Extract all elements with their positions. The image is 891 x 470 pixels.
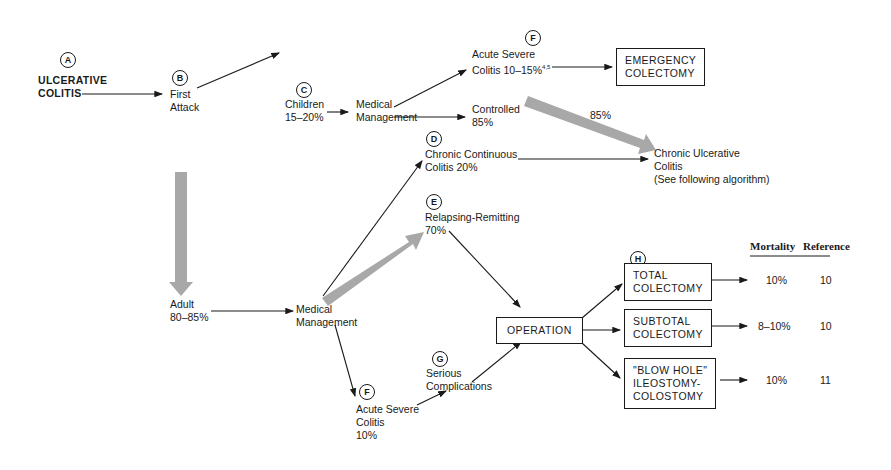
- node-children: Children 15–20%: [285, 98, 324, 124]
- med-mgmt-adult-line1: Medical: [296, 303, 357, 316]
- marker-a: A: [60, 52, 76, 68]
- gray-arrow-medmgmt-to-relapsing: [322, 232, 424, 306]
- gray-arrow-percent: 85%: [590, 109, 611, 122]
- adult-line2: 80–85%: [170, 311, 209, 324]
- box-emergency-colectomy: EMERGENCY COLECTOMY: [616, 48, 705, 86]
- d-line2: Colitis 20%: [425, 161, 517, 174]
- box-total-colectomy: TOTAL COLECTOMY: [624, 263, 712, 301]
- g-line2: Complications: [426, 380, 492, 393]
- mortality-subtotal: 8–10%: [758, 320, 791, 333]
- blowhole-line2: ILEOSTOMY-: [633, 377, 707, 390]
- node-b-line2: Attack: [170, 101, 199, 114]
- cuc-line2: Colitis: [654, 160, 770, 173]
- node-a-line1: ULCERATIVE: [38, 74, 107, 87]
- gray-arrows: [169, 96, 656, 306]
- reference-total: 10: [820, 274, 832, 287]
- node-first-attack: First Attack: [170, 88, 199, 114]
- gray-arrow-controlled-to-chronic: [524, 96, 656, 154]
- acute-bottom-line2: Colitis: [356, 416, 419, 429]
- node-a-line2: COLITIS: [38, 87, 107, 100]
- node-b-line1: First: [170, 88, 199, 101]
- total-line1: TOTAL: [633, 269, 703, 282]
- gray-arrow-b-to-adult: [169, 172, 193, 296]
- node-medical-management-adult: Medical Management: [296, 303, 357, 329]
- acute-bottom-line1: Acute Severe: [356, 403, 419, 416]
- med-mgmt-children-line1: Medical: [356, 98, 417, 111]
- reference-blowhole: 11: [820, 374, 831, 387]
- e-line1: Relapsing-Remitting: [425, 211, 520, 224]
- reference-subtotal: 10: [820, 320, 832, 333]
- blowhole-line3: COLOSTOMY: [633, 390, 707, 403]
- box-blow-hole: "BLOW HOLE" ILEOSTOMY- COLOSTOMY: [624, 358, 716, 409]
- node-chronic-ulcerative-colitis: Chronic Ulcerative Colitis (See followin…: [654, 147, 770, 186]
- subtotal-line1: SUBTOTAL: [633, 315, 703, 328]
- acute-top-line1: Acute Severe: [472, 48, 550, 61]
- arrow-b-to-children: [197, 53, 279, 88]
- header-reference: Reference: [803, 240, 850, 252]
- emergency-line2: COLECTOMY: [625, 67, 696, 80]
- acute-top-superscript: 4,5: [542, 64, 550, 70]
- node-acute-severe-bottom: Acute Severe Colitis 10%: [356, 403, 419, 442]
- subtotal-line2: COLECTOMY: [633, 328, 703, 341]
- controlled-line2: 85%: [472, 116, 520, 129]
- node-adult: Adult 80–85%: [170, 298, 209, 324]
- d-line1: Chronic Continuous: [425, 148, 517, 161]
- total-line2: COLECTOMY: [633, 282, 703, 295]
- acute-bottom-line3: 10%: [356, 429, 419, 442]
- header-mortality: Mortality: [750, 240, 795, 252]
- emergency-line1: EMERGENCY: [625, 54, 696, 67]
- adult-line1: Adult: [170, 298, 209, 311]
- g-line1: Serious: [426, 367, 492, 380]
- marker-b: B: [172, 70, 188, 86]
- e-line2: 70%: [425, 224, 520, 237]
- node-controlled: Controlled 85%: [472, 103, 520, 129]
- marker-f-top: F: [525, 30, 541, 46]
- node-acute-severe-top: Acute Severe Colitis 10–15%4,5: [472, 48, 550, 77]
- controlled-line1: Controlled: [472, 103, 520, 116]
- node-c-line1: Children: [285, 98, 324, 111]
- acute-top-line2: Colitis 10–15%4,5: [472, 61, 550, 77]
- mortality-blowhole: 10%: [766, 374, 787, 387]
- box-operation: OPERATION: [496, 317, 583, 344]
- node-serious-complications: Serious Complications: [426, 367, 492, 393]
- node-chronic-continuous: Chronic Continuous Colitis 20%: [425, 148, 517, 174]
- box-subtotal-colectomy: SUBTOTAL COLECTOMY: [624, 309, 712, 347]
- blowhole-line1: "BLOW HOLE": [633, 364, 707, 377]
- node-ulcerative-colitis: ULCERATIVE COLITIS: [38, 74, 107, 100]
- node-relapsing-remitting: Relapsing-Remitting 70%: [425, 211, 520, 237]
- mortality-total: 10%: [766, 274, 787, 287]
- marker-e: E: [426, 194, 442, 210]
- cuc-line3: (See following algorithm): [654, 173, 770, 186]
- node-medical-management-children: Medical Management: [356, 98, 417, 124]
- med-mgmt-children-line2: Management: [356, 111, 417, 124]
- node-c-line2: 15–20%: [285, 111, 324, 124]
- med-mgmt-adult-line2: Management: [296, 316, 357, 329]
- marker-d: D: [426, 131, 442, 147]
- operation-label: OPERATION: [507, 324, 572, 336]
- marker-c: C: [296, 82, 312, 98]
- marker-g: G: [432, 351, 448, 367]
- marker-f-bottom: F: [359, 384, 375, 400]
- cuc-line1: Chronic Ulcerative: [654, 147, 770, 160]
- acute-top-text: Colitis 10–15%: [472, 64, 542, 76]
